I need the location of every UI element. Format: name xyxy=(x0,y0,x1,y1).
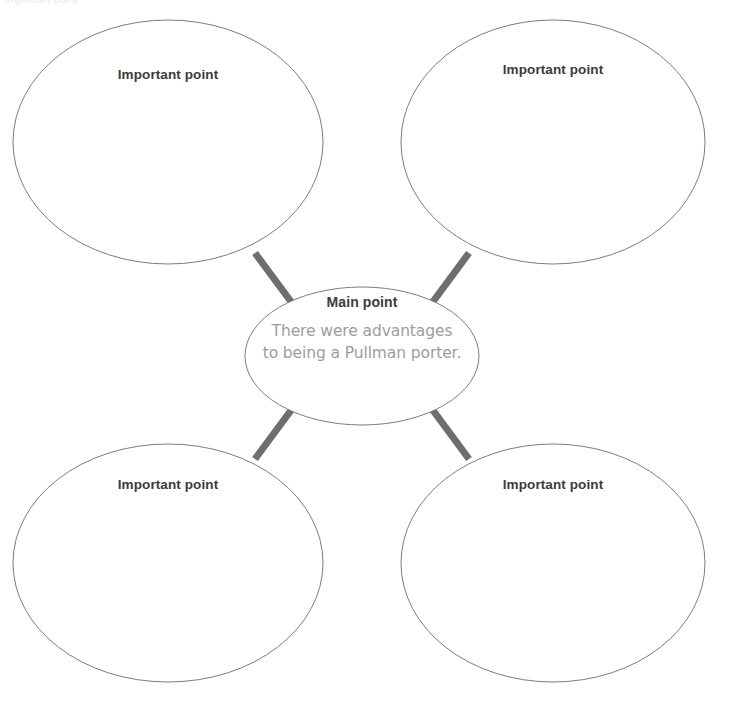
ellipse-layer xyxy=(13,20,705,682)
connector-center-to-top-left xyxy=(255,253,292,303)
connector-center-to-bottom-right xyxy=(432,409,469,459)
connector-center-to-top-right xyxy=(432,253,469,303)
organizer-canvas xyxy=(0,0,732,708)
important-point-top-left-ellipse[interactable] xyxy=(13,20,323,264)
important-point-bottom-left-ellipse[interactable] xyxy=(13,444,323,682)
main-point-ellipse[interactable] xyxy=(245,287,479,425)
connector-center-to-bottom-left xyxy=(255,409,292,459)
important-point-bottom-right-ellipse[interactable] xyxy=(401,444,705,682)
graphic-organizer: Important point Important pointImportant… xyxy=(0,0,732,708)
important-point-top-right-ellipse[interactable] xyxy=(401,20,705,264)
